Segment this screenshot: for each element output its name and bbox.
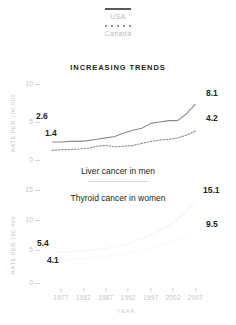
x-tick-1997: 1997 xyxy=(143,288,158,301)
end-label-canada-liver: 4.2 xyxy=(206,114,218,123)
x-tick-2002: 2002 xyxy=(165,288,180,301)
x-tick-1992: 1992 xyxy=(121,288,136,301)
x-tick-1977: 1977 xyxy=(53,288,68,301)
x-tick-mark xyxy=(83,288,84,292)
chart-headline: INCREASING TRENDS xyxy=(0,63,236,72)
end-label-canada-thyroid: 9.5 xyxy=(206,220,218,229)
series-line-usa-liver xyxy=(52,104,196,142)
x-tick-mark xyxy=(60,288,61,292)
x-tick-mark xyxy=(105,288,106,292)
start-label-canada-thyroid: 4.1 xyxy=(47,256,59,265)
legend-solid-line-icon xyxy=(105,8,131,10)
y-tick-bottom-10: 10 xyxy=(20,216,40,224)
y-tick-top-10: 10 xyxy=(20,80,40,88)
x-tick-label: 1992 xyxy=(121,294,136,301)
x-tick-label: 1987 xyxy=(98,294,113,301)
legend-label-canada: Canada xyxy=(105,29,132,39)
x-tick-label: 1977 xyxy=(53,294,68,301)
y-tick-top-0: 0 xyxy=(20,156,40,164)
x-tick-label: 2002 xyxy=(165,294,180,301)
x-tick-mark xyxy=(195,288,196,292)
legend-item-canada: Canada xyxy=(105,25,132,39)
x-tick-1987: 1987 xyxy=(98,288,113,301)
start-label-usa-liver: 2.6 xyxy=(36,112,48,121)
chart-panel-thyroid-cancer: RATE PER 100,000 15 10 5 0 5.4 4.1 15.1 … xyxy=(0,182,236,290)
chart-legend: USA Canada xyxy=(0,8,236,39)
plot-area-thyroid-cancer xyxy=(52,182,200,290)
caption-liver-cancer: Liver cancer in men xyxy=(0,166,236,176)
legend-label-usa: USA xyxy=(110,12,126,22)
x-axis-title: YEAR xyxy=(52,308,200,314)
x-tick-2007: 2007 xyxy=(188,288,203,301)
x-axis: 1977198219871992199720022007YEAR xyxy=(52,288,200,318)
x-tick-label: 1997 xyxy=(143,294,158,301)
x-tick-label: 2007 xyxy=(188,294,203,301)
x-tick-mark xyxy=(128,288,129,292)
x-tick-1982: 1982 xyxy=(76,288,91,301)
plot-svg-thyroid xyxy=(52,182,200,290)
start-label-usa-thyroid: 5.4 xyxy=(37,239,49,248)
y-axis-title-bottom: RATE PER 100,000 xyxy=(10,216,16,274)
x-tick-mark xyxy=(150,288,151,292)
chart-panel-liver-cancer: RATE PER 100,000 10 5 0 2.6 1.4 8.1 4.2 xyxy=(0,76,236,168)
plot-svg-liver xyxy=(52,76,200,168)
y-tick-bottom-0: 0 xyxy=(20,279,40,287)
end-label-usa-liver: 8.1 xyxy=(206,89,218,98)
legend-item-usa: USA xyxy=(105,8,131,22)
series-line-canada-liver xyxy=(52,131,196,150)
visualization-root: USA Canada INCREASING TRENDS RATE PER 10… xyxy=(0,0,236,325)
y-axis-title-top: RATE PER 100,000 xyxy=(10,94,16,152)
start-label-canada-liver: 1.4 xyxy=(45,129,57,138)
x-tick-label: 1982 xyxy=(76,294,91,301)
plot-area-liver-cancer xyxy=(52,76,200,168)
x-tick-mark xyxy=(173,288,174,292)
legend-dotted-line-icon xyxy=(105,25,131,27)
series-line-usa-thyroid xyxy=(52,200,196,253)
end-label-usa-thyroid: 15.1 xyxy=(203,186,220,195)
y-tick-bottom-15: 15 xyxy=(20,186,40,194)
